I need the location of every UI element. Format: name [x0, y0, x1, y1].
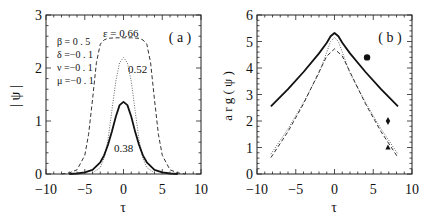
- b-xlabel: τ: [331, 200, 337, 215]
- a-ylabel: | ψ |: [8, 85, 23, 106]
- a-param-mu: μ =−0 . 1: [57, 75, 94, 86]
- b-ytick-label: 1: [246, 141, 253, 156]
- b-xtick-label: 10: [405, 182, 419, 197]
- b-curve-dotted: [271, 38, 398, 155]
- a-param-nu: ν =−0 . 1: [57, 62, 93, 73]
- diamond-marker: [386, 117, 390, 125]
- a-param-delta: δ =−0 . 1: [57, 49, 93, 60]
- b-ytick-label: 5: [246, 35, 253, 50]
- a-xtick-label: −5: [77, 182, 92, 197]
- b-xtick-label: −5: [288, 182, 303, 197]
- b-xtick-label: 5: [370, 182, 377, 197]
- figure: −10−505100123 ( a ) τ | ψ | β = 0 . 5 δ …: [0, 0, 429, 223]
- b-markers: [364, 54, 391, 149]
- b-xtick-label: 0: [331, 182, 338, 197]
- b-ytick-label: 0: [246, 167, 253, 182]
- a-series-label-038: 0.38: [114, 142, 134, 154]
- circle-marker: [364, 54, 370, 60]
- a-series-label-052: 0.52: [128, 63, 147, 75]
- a-ytick-label: 3: [35, 8, 42, 23]
- a-xlabel: τ: [120, 200, 126, 215]
- a-panel-label: ( a ): [169, 30, 192, 46]
- b-ytick-label: 3: [246, 88, 253, 103]
- b-xtick-label: −10: [246, 182, 268, 197]
- b-ytick-label: 6: [246, 8, 253, 23]
- a-ytick-label: 0: [35, 167, 42, 182]
- b-panel-label: ( b ): [378, 30, 402, 46]
- panel-b: −10−505100123456 ( b ) τ a r g ( ψ ): [220, 8, 419, 215]
- a-xtick-label: 10: [194, 182, 208, 197]
- a-param-beta: β = 0 . 5: [57, 36, 90, 47]
- b-ylabel: a r g ( ψ ): [220, 71, 235, 121]
- a-xtick-label: 0: [120, 182, 127, 197]
- a-xtick-label: 5: [159, 182, 166, 197]
- triangle-marker: [385, 145, 390, 150]
- b-curve-dashed: [271, 49, 398, 158]
- a-series-label-066: ε = 0.66: [103, 27, 139, 39]
- a-ytick-label: 2: [35, 61, 42, 76]
- b-ytick-label: 4: [246, 61, 253, 76]
- a-curve-solid: [69, 102, 178, 174]
- panel-a: −10−505100123 ( a ) τ | ψ | β = 0 . 5 δ …: [8, 8, 208, 215]
- b-ytick-label: 2: [246, 114, 253, 129]
- a-xtick-label: −10: [35, 182, 57, 197]
- b-curves: [271, 33, 398, 158]
- a-ytick-label: 1: [35, 114, 42, 129]
